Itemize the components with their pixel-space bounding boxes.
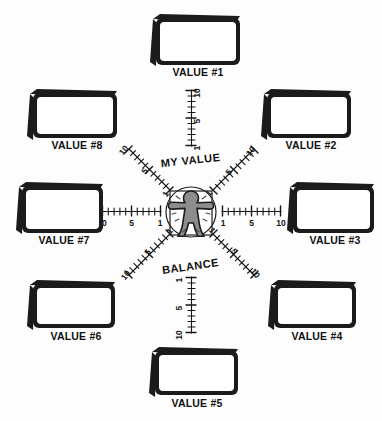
value-box-7[interactable]: VALUE #7: [16, 182, 103, 246]
axis-n-tick-1: 1: [192, 145, 202, 150]
axis-ne-tick-10: 10: [244, 144, 258, 158]
axis-w: 10 5 1: [97, 206, 162, 228]
axis-title-balance: BALANCE: [161, 256, 219, 276]
value-box-6-label: VALUE #6: [50, 330, 101, 342]
axis-title-my-value: MY VALUE: [160, 151, 221, 169]
value-box-6[interactable]: VALUE #6: [27, 280, 115, 342]
axis-nw: 10 5 1: [117, 143, 173, 199]
axis-n-tick-5: 5: [192, 118, 202, 123]
axis-se: 1 5 10: [207, 225, 262, 280]
value-box-5-label: VALUE #5: [171, 397, 222, 409]
axis-e-tick-5: 5: [249, 218, 254, 228]
value-box-8[interactable]: VALUE #8: [27, 89, 117, 151]
value-box-3-label: VALUE #3: [309, 234, 360, 246]
axis-n: 10 5 1: [186, 88, 202, 150]
axis-nw-tick-10: 10: [117, 143, 131, 157]
value-box-2[interactable]: VALUE #2: [261, 89, 351, 151]
axis-s-tick-10: 10: [174, 330, 184, 340]
value-box-2-label: VALUE #2: [285, 139, 336, 151]
value-box-4-label: VALUE #4: [291, 330, 342, 342]
center-person-figure: [166, 187, 216, 237]
axis-w-tick-1: 1: [158, 218, 163, 228]
value-box-4[interactable]: VALUE #4: [268, 280, 356, 342]
axis-e-tick-10: 10: [276, 218, 286, 228]
value-box-8-label: VALUE #8: [51, 139, 102, 151]
value-box-1[interactable]: VALUE #1: [150, 14, 240, 78]
value-box-1-label: VALUE #1: [172, 66, 223, 78]
value-box-7-label: VALUE #7: [38, 234, 89, 246]
value-box-5[interactable]: VALUE #5: [149, 347, 238, 409]
axis-n-tick-10: 10: [192, 88, 202, 98]
axis-w-tick-5: 5: [129, 218, 134, 228]
axis-s: 1 5 10: [174, 277, 196, 340]
axis-s-tick-1: 1: [174, 277, 184, 282]
values-wheel-diagram: 10 5 1 1 5 10: [0, 0, 382, 421]
value-box-3[interactable]: VALUE #3: [287, 182, 374, 246]
axis-e-tick-1: 1: [221, 218, 226, 228]
axis-e: 1 5 10: [221, 206, 286, 228]
axis-sw-tick-10: 10: [119, 268, 133, 282]
axis-s-tick-5: 5: [174, 305, 184, 310]
